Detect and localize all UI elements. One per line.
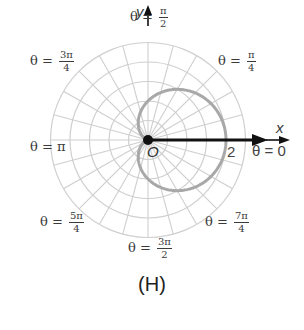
angle-label-pi-over-2: θ = π2 xyxy=(130,6,168,29)
origin-label: O xyxy=(147,144,159,159)
angle-label-3pi-over-4: θ = 3π4 xyxy=(30,50,74,73)
angle-label-7pi-over-4: θ = 7π4 xyxy=(205,211,249,234)
angle-label-3pi-over-2: θ = 3π2 xyxy=(128,237,172,260)
grid-radial-line xyxy=(64,91,148,140)
angle-label-5pi-over-4: θ = 5π4 xyxy=(40,211,84,234)
radial-tick-label-2: 2 xyxy=(227,144,235,159)
grid-radial-line xyxy=(99,140,148,224)
grid-radial-line xyxy=(148,71,217,140)
polar-graph-figure: y x O 2 θ = π2 θ = 3π4 θ = π4 θ = π θ = … xyxy=(0,0,304,330)
x-axis-label: x xyxy=(276,120,284,135)
angle-label-pi-over-4: θ = π4 xyxy=(218,50,256,73)
angle-label-0: θ = 0 xyxy=(252,143,286,158)
figure-caption: (H) xyxy=(0,274,304,294)
grid-radial-line xyxy=(64,140,148,189)
grid-radial-line xyxy=(148,56,197,140)
grid-radial-line xyxy=(99,56,148,140)
angle-label-pi: θ = π xyxy=(30,140,66,153)
